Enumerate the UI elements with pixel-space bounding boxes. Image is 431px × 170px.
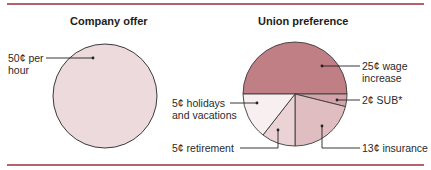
slice-wage bbox=[243, 42, 347, 94]
label-holidays-line1: 5¢ holidays bbox=[172, 97, 225, 109]
label-holidays-line2: and vacations bbox=[172, 109, 237, 121]
label-50c-line1: 50¢ per bbox=[8, 52, 44, 64]
company-offer-pie bbox=[53, 44, 157, 148]
label-retirement: 5¢ retirement bbox=[172, 142, 234, 154]
label-wage-line1: 25¢ wage bbox=[362, 60, 408, 72]
label-sub: 2¢ SUB* bbox=[362, 94, 402, 106]
label-50c-line2: hour bbox=[8, 64, 29, 76]
label-wage-line2: increase bbox=[362, 72, 402, 84]
union-preference-pie bbox=[243, 42, 347, 146]
label-insurance: 13¢ insurance bbox=[362, 142, 428, 154]
